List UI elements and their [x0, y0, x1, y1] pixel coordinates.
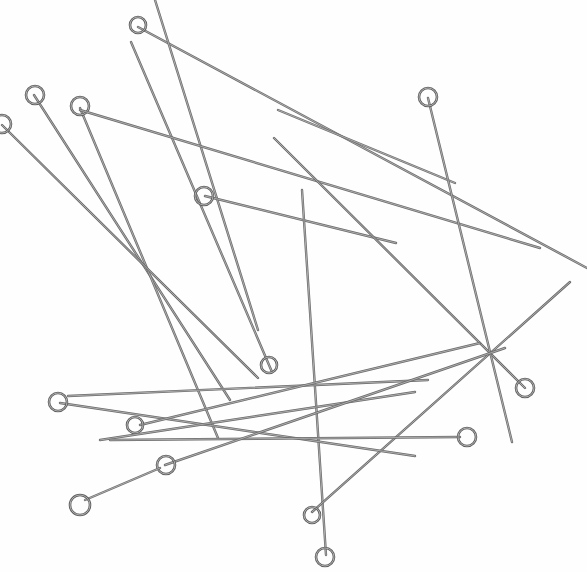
- pin-wire-highlight: [80, 108, 218, 438]
- pin-wire-highlight: [34, 95, 230, 400]
- eye-pin: [278, 110, 455, 183]
- pin-wire-highlight: [302, 190, 326, 555]
- eye-pins-photo: [0, 0, 587, 572]
- pin-eye-highlight: [304, 507, 320, 523]
- pin-wire-highlight: [80, 110, 540, 248]
- eye-pin: [70, 468, 160, 515]
- pin-eye-highlight: [49, 393, 67, 411]
- pin-wire-highlight: [85, 468, 160, 500]
- pin-wire-highlight: [140, 343, 480, 425]
- pin-wire-highlight: [428, 98, 512, 442]
- eye-pin: [80, 110, 540, 248]
- pin-wire-highlight: [155, 0, 258, 330]
- pin-wire-highlight: [278, 110, 455, 183]
- pin-wire-highlight: [60, 403, 415, 456]
- eye-pin: [419, 88, 512, 442]
- eye-pin: [127, 343, 480, 433]
- pin-eye-highlight: [130, 17, 146, 33]
- pin-wire-highlight: [205, 196, 396, 243]
- eye-pin: [155, 0, 258, 330]
- pin-wire-highlight: [312, 282, 570, 512]
- pin-eye-highlight: [70, 495, 90, 515]
- eye-pin: [26, 86, 230, 400]
- eye-pins-illustration: [0, 0, 587, 572]
